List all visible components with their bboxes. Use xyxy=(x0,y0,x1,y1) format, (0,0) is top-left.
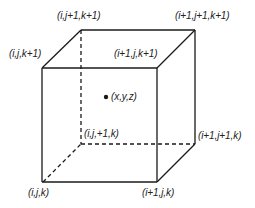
label-i-j-k1: (i,j,k+1) xyxy=(9,48,41,60)
label-i1-j1-k1: (i+1,j+1,k+1) xyxy=(175,10,230,22)
label-i-j1-k1: (i,j+1,k+1) xyxy=(57,10,100,22)
label-i1-j-k: (i+1,j,k) xyxy=(142,187,174,199)
label-i1-j1-k: (i+1,j+1,k) xyxy=(198,130,241,142)
hidden-edge-bottom-left-diagonal xyxy=(43,144,81,182)
center-point-dot xyxy=(104,95,108,99)
label-i-j1-k: (i,j,+1,k) xyxy=(84,128,119,140)
label-center-point: (x,y,z) xyxy=(111,91,137,103)
cube-diagram xyxy=(0,0,255,208)
edge-top-right-diagonal xyxy=(157,30,195,68)
edge-bottom-right-diagonal xyxy=(157,144,195,182)
label-i-j-k: (i,j,k) xyxy=(28,187,49,199)
edge-top-left-diagonal xyxy=(42,30,81,68)
label-i1-j-k1: (i+1,j,k+1) xyxy=(114,48,157,60)
